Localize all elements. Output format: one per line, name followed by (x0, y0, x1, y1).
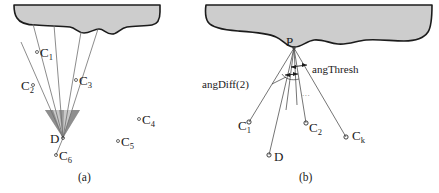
panel-a-marker-c3 (75, 79, 78, 82)
panel-b-label-ck: Ck (352, 128, 366, 145)
panel-b-terrain-blob (206, 5, 433, 47)
panel-a-label-c4: C4 (142, 112, 156, 129)
panel-b: P C1 C2 Ck D angDiff(2) angThresh ... (b… (202, 5, 432, 184)
panel-b-label-d: D (274, 149, 283, 164)
panel-b-label-ellipsis: ... (302, 88, 310, 98)
figure-svg: C1 C2 C3 C4 C5 C6 D (a) (0, 0, 439, 193)
panel-a-label-c6: C6 (59, 148, 72, 165)
panel-b-caption: (b) (299, 171, 313, 184)
panel-b-label-p: P (286, 34, 293, 49)
panel-b-ray-d (269, 48, 294, 155)
panel-a-label-c3: C3 (79, 73, 92, 90)
panel-b-ray-inner1 (286, 48, 294, 110)
panel-a-label-c1: C1 (40, 45, 53, 62)
panel-b-ray-c1 (249, 48, 294, 122)
panel-a-terrain-blob (14, 5, 160, 34)
panel-b-label-angdiff: angDiff(2) (202, 78, 249, 91)
panel-a-marker-c4 (138, 118, 141, 121)
panel-a-label-c2: C2 (21, 78, 34, 95)
panel-a-marker-c5 (117, 140, 120, 143)
figure-container: C1 C2 C3 C4 C5 C6 D (a) (0, 0, 439, 193)
panel-b-label-c2: C2 (309, 120, 322, 137)
panel-a-caption: (a) (78, 171, 91, 184)
panel-b-label-angthresh: angThresh (312, 63, 359, 75)
panel-b-label-c1: C1 (238, 118, 251, 135)
panel-a-label-d: D (50, 131, 59, 146)
panel-a-label-c5: C5 (121, 134, 134, 151)
panel-a: C1 C2 C3 C4 C5 C6 D (a) (14, 5, 160, 184)
panel-a-marker-c1 (36, 51, 39, 54)
